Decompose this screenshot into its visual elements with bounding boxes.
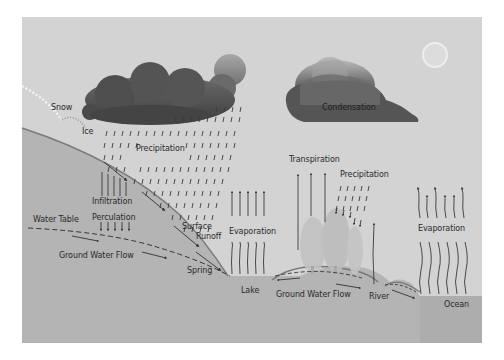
- label-evaporation-ocean: Evaporation: [418, 225, 465, 233]
- label-transpiration: Transpiration: [289, 156, 340, 164]
- label-surface-runoff-line2: Runoff: [196, 233, 221, 241]
- label-snow: Snow: [51, 104, 72, 112]
- label-water-table: Water Table: [33, 216, 79, 224]
- diagram-canvas: [0, 0, 504, 360]
- label-ice: Ice: [82, 128, 93, 136]
- label-infiltration: Infiltration: [92, 198, 132, 206]
- label-condensation: Condensation: [322, 104, 376, 112]
- label-river: River: [369, 293, 389, 301]
- label-ground-water-flow-right: Ground Water Flow: [276, 291, 351, 299]
- water-cycle-diagram: Snow Ice Precipitation Condensation Infi…: [0, 0, 504, 360]
- sun-icon: [423, 43, 447, 67]
- label-ocean: Ocean: [444, 301, 469, 309]
- label-lake: Lake: [241, 287, 259, 295]
- label-precipitation-left: Precipitation: [136, 145, 185, 153]
- label-perculation: Perculation: [92, 214, 135, 222]
- label-ground-water-flow-left: Ground Water Flow: [59, 252, 134, 260]
- label-precipitation-right: Precipitation: [340, 171, 389, 179]
- label-evaporation-lake: Evaporation: [229, 228, 276, 236]
- label-spring: Spring: [187, 267, 212, 275]
- label-surface-runoff-line1: Surface: [182, 223, 212, 231]
